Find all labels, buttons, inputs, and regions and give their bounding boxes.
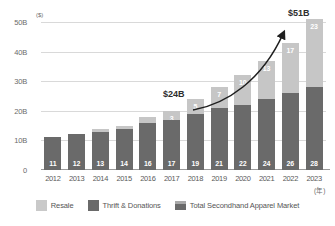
bar-value-thrift-2020: 22 (234, 160, 251, 167)
bar-column-2012[interactable]: 11 (44, 137, 61, 170)
bar-segment-resale-2021[interactable]: 13 (258, 61, 275, 99)
y-axis-unit: ($) (36, 12, 43, 18)
bar-column-2015[interactable]: 14 (116, 126, 133, 170)
bar-value-thrift-2017: 17 (163, 160, 180, 167)
bar-segment-resale-2017[interactable]: 3 (163, 111, 180, 120)
bar-value-resale-2019: 7 (211, 91, 228, 98)
bar-segment-resale-2019[interactable]: 7 (211, 87, 228, 108)
bar-segment-resale-2020[interactable]: 10 (234, 75, 251, 105)
chart-legend: Resale Thrift & Donations Total Secondha… (0, 196, 335, 214)
bar-column-2020[interactable]: 1022 (234, 75, 251, 170)
bar-segment-thrift-2013[interactable]: 12 (68, 134, 85, 170)
bar-value-thrift-2021: 24 (258, 160, 275, 167)
legend-item-total-market: Total Secondhand Apparel Market (175, 201, 299, 210)
bar-value-thrift-2019: 21 (211, 160, 228, 167)
bar-column-2018[interactable]: 519 (187, 99, 204, 170)
bar-segment-thrift-2019[interactable]: 21 (211, 108, 228, 170)
y-tick-label-0: 0 (0, 166, 27, 175)
bar-value-thrift-2014: 13 (92, 160, 109, 167)
secondhand-apparel-market-chart: ($) 50B 40B 30B 20B 10B 0 11121314163175… (0, 0, 335, 226)
bar-value-resale-2020: 10 (234, 79, 251, 86)
bar-segment-thrift-2020[interactable]: 22 (234, 105, 251, 170)
y-tick-label-30b: 30B (0, 77, 27, 86)
bar-value-thrift-2018: 19 (187, 160, 204, 167)
legend-label-total-market: Total Secondhand Apparel Market (190, 201, 299, 210)
bar-column-2021[interactable]: 1324 (258, 61, 275, 171)
x-axis-labels: 2012201320142015201620172018201920202021… (41, 174, 326, 186)
bar-segment-thrift-2015[interactable]: 14 (116, 129, 133, 170)
bar-segment-thrift-2017[interactable]: 17 (163, 120, 180, 170)
y-tick-label-40b: 40B (0, 48, 27, 57)
legend-label-resale: Resale (51, 201, 74, 210)
bar-segment-resale-2022[interactable]: 17 (282, 43, 299, 93)
bar-value-resale-2023: 23 (306, 23, 323, 30)
bar-value-thrift-2022: 26 (282, 160, 299, 167)
callout-end-value: $51B (288, 8, 310, 18)
bar-value-thrift-2015: 14 (116, 160, 133, 167)
bar-value-resale-2022: 17 (282, 47, 299, 54)
bar-segment-thrift-2016[interactable]: 16 (139, 123, 156, 170)
bar-segment-thrift-2018[interactable]: 19 (187, 114, 204, 170)
y-tick-label-50b: 50B (0, 18, 27, 27)
bar-column-2013[interactable]: 12 (68, 134, 85, 170)
x-tick-label-2023: 2023 (299, 174, 329, 183)
bar-segment-thrift-2014[interactable]: 13 (92, 132, 109, 170)
bar-value-thrift-2023: 28 (306, 160, 323, 167)
legend-swatch-thrift-icon (88, 200, 99, 211)
bar-value-thrift-2016: 16 (139, 160, 156, 167)
bar-column-2019[interactable]: 721 (211, 87, 228, 170)
bar-segment-thrift-2023[interactable]: 28 (306, 87, 323, 170)
legend-item-thrift-donations: Thrift & Donations (88, 200, 161, 211)
y-tick-label-10b: 10B (0, 136, 27, 145)
callout-start-value: $24B (163, 89, 185, 99)
bar-column-2016[interactable]: 16 (139, 117, 156, 170)
x-axis-unit: (年) (314, 185, 325, 195)
bar-value-thrift-2013: 12 (68, 160, 85, 167)
bar-segment-resale-2023[interactable]: 23 (306, 19, 323, 87)
bar-segment-thrift-2012[interactable]: 11 (44, 137, 61, 170)
bar-segment-resale-2018[interactable]: 5 (187, 99, 204, 114)
bar-column-2014[interactable]: 13 (92, 129, 109, 170)
bar-segment-thrift-2022[interactable]: 26 (282, 93, 299, 170)
y-tick-label-20b: 20B (0, 107, 27, 116)
bar-value-resale-2018: 5 (187, 103, 204, 110)
legend-label-thrift-donations: Thrift & Donations (103, 201, 161, 210)
bar-value-thrift-2012: 11 (44, 160, 61, 167)
bar-segment-thrift-2021[interactable]: 24 (258, 99, 275, 170)
bar-column-2017[interactable]: 317 (163, 111, 180, 170)
bar-column-2022[interactable]: 1726 (282, 43, 299, 170)
legend-item-resale: Resale (36, 200, 74, 211)
bar-value-resale-2021: 13 (258, 65, 275, 72)
bar-column-2023[interactable]: 2328 (306, 19, 323, 170)
legend-swatch-resale-icon (36, 200, 47, 211)
legend-swatch-total-icon (175, 201, 186, 210)
